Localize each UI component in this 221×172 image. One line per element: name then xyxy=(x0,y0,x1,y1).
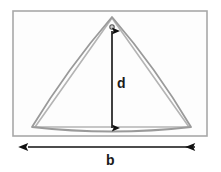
geometry-figure: d b xyxy=(0,0,221,172)
figure-canvas xyxy=(0,0,221,172)
depth-label: d xyxy=(117,76,126,90)
base-label: b xyxy=(106,153,115,167)
apex-point-marker xyxy=(110,25,114,29)
